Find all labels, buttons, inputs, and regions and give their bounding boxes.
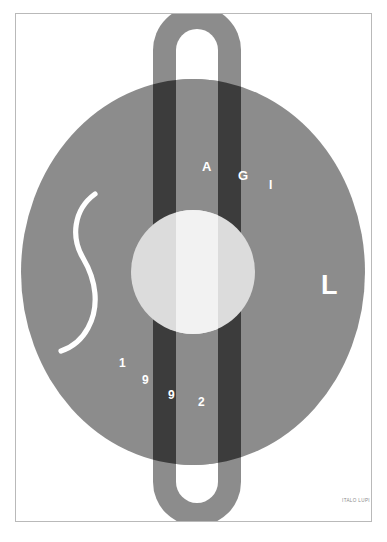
poster-artwork <box>16 14 371 521</box>
letter-g: G <box>238 169 248 182</box>
poster-canvas: A G I L 1 9 9 2 ITALO LUPI <box>0 0 387 542</box>
designer-credit: ITALO LUPI <box>342 498 370 503</box>
year-digit-1: 1 <box>119 357 126 369</box>
poster-artboard: A G I L 1 9 9 2 <box>16 14 371 521</box>
letter-a: A <box>202 160 211 173</box>
year-digit-3: 9 <box>168 389 175 401</box>
year-digit-4: 2 <box>198 396 205 408</box>
letter-i: I <box>269 179 272 191</box>
letter-l-large: L <box>321 272 338 299</box>
year-digit-2: 9 <box>142 374 149 386</box>
